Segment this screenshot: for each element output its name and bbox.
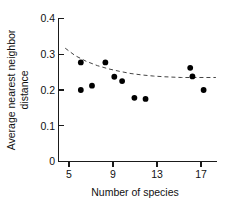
y-tick-label-0.4: 0.4: [40, 12, 55, 24]
data-point: [201, 87, 207, 93]
data-point: [119, 78, 125, 84]
trend-curve-dashed: [65, 48, 216, 77]
y-tick-labels: 0 0.1 0.2 0.3 0.4: [40, 12, 55, 167]
y-tick-marks: [59, 19, 64, 162]
y-axis-title-line2: distance: [18, 70, 30, 109]
data-point: [190, 74, 196, 80]
scatter-plot-figure: 0 0.1 0.2 0.3 0.4 5 9 13 17 Number of sp…: [0, 0, 236, 209]
data-point: [132, 95, 138, 101]
y-tick-label-0.1: 0.1: [40, 120, 55, 132]
y-tick-label-0.3: 0.3: [40, 48, 55, 60]
y-axis-title-line1: Average nearest neighbor: [5, 29, 17, 150]
data-point: [102, 60, 108, 66]
data-point: [89, 83, 95, 89]
x-tick-label-5: 5: [66, 168, 72, 180]
x-tick-label-13: 13: [151, 168, 163, 180]
y-tick-label-0.2: 0.2: [40, 84, 55, 96]
data-point: [78, 87, 84, 93]
x-tick-label-17: 17: [195, 168, 207, 180]
data-point: [143, 96, 149, 102]
x-tick-labels: 5 9 13 17: [66, 168, 207, 180]
y-tick-label-0: 0: [49, 155, 55, 167]
data-point: [78, 60, 84, 66]
x-tick-label-9: 9: [110, 168, 116, 180]
x-axis-title: Number of species: [91, 186, 179, 198]
x-tick-marks: [69, 162, 201, 168]
plot-canvas: 0 0.1 0.2 0.3 0.4 5 9 13 17 Number of sp…: [0, 0, 236, 209]
data-point: [111, 74, 117, 80]
data-point: [187, 65, 193, 71]
